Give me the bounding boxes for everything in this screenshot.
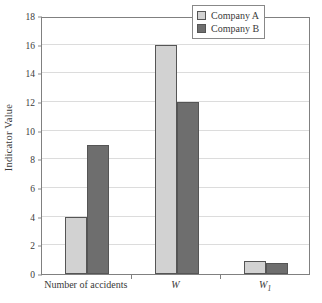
bar-company-b — [177, 102, 199, 274]
plot-area — [41, 17, 310, 275]
y-axis-ticks: 024681012141618 — [16, 17, 38, 275]
y-tick-label: 14 — [26, 69, 36, 79]
bar-company-a — [65, 217, 87, 274]
bar-company-b — [87, 145, 109, 274]
bar-company-a — [244, 261, 266, 274]
y-tick-label: 2 — [30, 241, 35, 251]
y-tick-label: 0 — [30, 270, 35, 280]
x-tick-label: Number of accidents — [44, 279, 127, 290]
chart-legend: Company ACompany B — [192, 5, 265, 39]
y-tick-label: 8 — [30, 155, 35, 165]
y-tick-label: 4 — [30, 213, 35, 223]
y-tick-label: 16 — [26, 41, 36, 51]
bar-company-a — [155, 45, 177, 274]
x-axis-ticks: Number of accidentsWW1 — [41, 275, 310, 303]
y-tick-label: 12 — [26, 98, 36, 108]
x-tick-mark — [131, 275, 132, 279]
y-axis-label: Indicator Value — [4, 104, 15, 171]
legend-swatch-company-b-icon — [197, 24, 206, 33]
y-tick-label: 6 — [30, 184, 35, 194]
x-tick-label: W1 — [259, 279, 271, 293]
bar-company-b — [266, 263, 288, 274]
legend-label: Company B — [211, 23, 259, 34]
x-tick-label: W — [171, 279, 179, 290]
legend-swatch-company-a-icon — [197, 11, 206, 20]
y-tick-label: 18 — [26, 12, 36, 22]
x-tick-mark — [220, 275, 221, 279]
y-tick-label: 10 — [26, 127, 36, 137]
legend-label: Company A — [211, 10, 259, 21]
bar-chart-figure: Indicator Value 024681012141618 Number o… — [0, 0, 322, 303]
legend-item: Company A — [197, 9, 259, 22]
legend-item: Company B — [197, 22, 259, 35]
